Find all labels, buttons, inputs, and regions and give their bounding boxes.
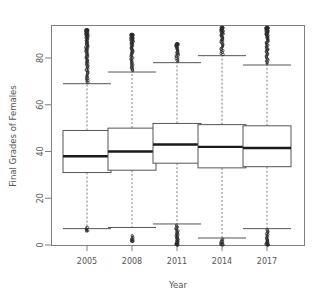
y-tick-label: 20 (36, 193, 45, 203)
y-axis-title: Final Grades of Females (8, 85, 18, 187)
boxplot-figure: 020406080 20052008201120142017 Final Gra… (0, 0, 317, 297)
x-axis-title: Year (168, 280, 188, 290)
x-tick-label: 2008 (122, 257, 142, 266)
chart-canvas: 020406080 20052008201120142017 Final Gra… (0, 0, 317, 297)
x-tick-label: 2005 (77, 257, 97, 266)
x-tick-label: 2014 (212, 257, 232, 266)
box-rect (63, 130, 111, 172)
box-rect (243, 126, 291, 167)
box-rect (108, 128, 156, 170)
x-tick-label: 2017 (257, 257, 277, 266)
y-tick-label: 80 (36, 53, 45, 63)
x-tick-label: 2011 (167, 257, 187, 266)
y-tick-label: 60 (36, 100, 45, 110)
y-tick-label: 40 (36, 146, 45, 156)
y-tick-label: 0 (36, 242, 45, 247)
